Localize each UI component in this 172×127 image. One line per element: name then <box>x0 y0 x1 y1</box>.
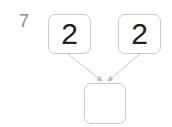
left-arrow <box>68 54 102 81</box>
right-arrow <box>108 54 140 81</box>
answer-box[interactable] <box>84 83 126 124</box>
